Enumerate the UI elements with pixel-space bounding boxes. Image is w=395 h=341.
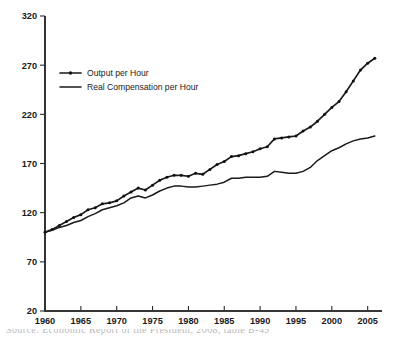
series-marker bbox=[309, 126, 312, 129]
series-marker bbox=[65, 220, 68, 223]
x-tick-label: 1960 bbox=[35, 316, 55, 326]
y-tick-label: 170 bbox=[22, 159, 37, 169]
chart-background bbox=[0, 0, 395, 341]
series-marker bbox=[330, 106, 333, 109]
x-tick-label: 1990 bbox=[250, 316, 270, 326]
y-tick-label: 120 bbox=[22, 208, 37, 218]
series-marker bbox=[373, 57, 376, 60]
series-marker bbox=[144, 189, 147, 192]
series-marker bbox=[87, 208, 90, 211]
series-marker bbox=[216, 163, 219, 166]
series-marker bbox=[101, 202, 104, 205]
x-tick-label: 1980 bbox=[178, 316, 198, 326]
series-marker bbox=[287, 135, 290, 138]
series-marker bbox=[302, 130, 305, 133]
series-marker bbox=[352, 79, 355, 82]
caption-text: Source: Economic Report of the President… bbox=[6, 329, 270, 335]
series-marker bbox=[122, 194, 125, 197]
series-marker bbox=[130, 191, 133, 194]
series-marker bbox=[273, 137, 276, 140]
series-marker bbox=[151, 184, 154, 187]
series-marker bbox=[251, 150, 254, 153]
x-tick-label: 1995 bbox=[286, 316, 306, 326]
x-tick-label: 1965 bbox=[71, 316, 91, 326]
series-marker bbox=[137, 187, 140, 190]
series-marker bbox=[230, 155, 233, 158]
series-marker bbox=[259, 147, 262, 150]
y-tick-label: 270 bbox=[22, 61, 37, 71]
x-tick-label: 2005 bbox=[357, 316, 377, 326]
series-marker bbox=[158, 179, 161, 182]
series-marker bbox=[115, 199, 118, 202]
series-marker bbox=[173, 174, 176, 177]
series-marker bbox=[280, 136, 283, 139]
series-marker bbox=[337, 100, 340, 103]
series-marker bbox=[237, 154, 240, 157]
y-tick-label: 220 bbox=[22, 110, 37, 120]
y-tick-label: 20 bbox=[27, 306, 37, 316]
y-tick-label: 320 bbox=[22, 11, 37, 21]
series-marker bbox=[345, 90, 348, 93]
cut-off-caption: Source: Economic Report of the President… bbox=[0, 329, 395, 341]
series-marker bbox=[266, 145, 269, 148]
x-tick-label: 1985 bbox=[214, 316, 234, 326]
series-marker bbox=[244, 152, 247, 155]
line-chart: 2070120170220270320196019651970197519801… bbox=[0, 0, 395, 341]
series-marker bbox=[187, 175, 190, 178]
x-tick-label: 1970 bbox=[106, 316, 126, 326]
x-tick-label: 2000 bbox=[322, 316, 342, 326]
series-marker bbox=[194, 172, 197, 175]
chart-figure: 2070120170220270320196019651970197519801… bbox=[0, 0, 395, 341]
legend-entry-label: Output per Hour bbox=[87, 68, 149, 78]
series-marker bbox=[94, 206, 97, 209]
series-marker bbox=[72, 216, 75, 219]
series-marker bbox=[208, 168, 211, 171]
series-marker bbox=[223, 160, 226, 163]
legend-marker bbox=[69, 71, 72, 74]
x-tick-label: 1975 bbox=[142, 316, 162, 326]
series-marker bbox=[79, 213, 82, 216]
series-marker bbox=[366, 62, 369, 65]
series-marker bbox=[108, 201, 111, 204]
series-marker bbox=[165, 176, 168, 179]
series-marker bbox=[294, 134, 297, 137]
series-marker bbox=[180, 174, 183, 177]
series-marker bbox=[201, 173, 204, 176]
legend-entry-label: Real Compensation per Hour bbox=[87, 82, 198, 92]
series-marker bbox=[359, 69, 362, 72]
series-marker bbox=[323, 113, 326, 116]
y-tick-label: 70 bbox=[27, 257, 37, 267]
series-marker bbox=[316, 120, 319, 123]
